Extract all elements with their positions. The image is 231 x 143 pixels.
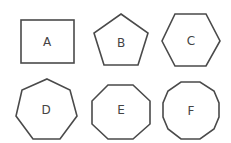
shape-c-label: C — [187, 34, 195, 48]
shape-b-label: B — [117, 36, 125, 50]
shape-f-label: F — [188, 104, 195, 118]
shape-f-decagon: F — [163, 82, 219, 139]
shape-a-label: A — [43, 35, 52, 49]
shapes-diagram: A B C D E F — [0, 0, 231, 143]
shape-d-label: D — [41, 103, 50, 117]
shape-e-octagon: E — [92, 85, 150, 139]
shape-e-label: E — [117, 103, 125, 117]
shape-a-rectangle: A — [21, 20, 74, 63]
shape-b-pentagon: B — [94, 14, 148, 65]
shape-c-hexagon: C — [162, 14, 220, 66]
shape-d-heptagon: D — [16, 79, 77, 139]
